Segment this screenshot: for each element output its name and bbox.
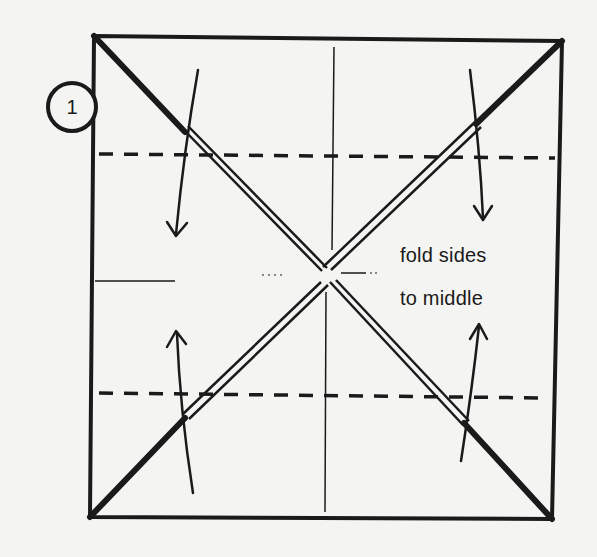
bottom-fold-line-dashed (99, 393, 545, 398)
top-fold-line-dashed (99, 154, 555, 158)
step-number: 1 (48, 83, 96, 131)
arrow-up-left-icon (167, 331, 193, 493)
arrow-down-right-icon (470, 70, 492, 220)
vertical-center-crease-lower (325, 292, 326, 512)
instruction-line-1: fold sides (400, 244, 487, 267)
vertical-center-crease (332, 47, 334, 250)
instruction-line-2: to middle (400, 287, 483, 310)
diagonal-crease-tl-br (94, 36, 552, 519)
